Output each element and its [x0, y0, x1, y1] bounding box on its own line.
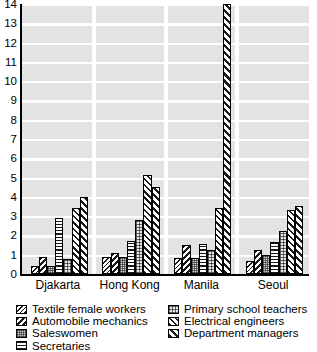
- y-tick-label: 0: [11, 269, 17, 280]
- x-tick-label: Djakarta: [36, 278, 81, 292]
- bar[interactable]: [119, 257, 127, 274]
- legend-label: Textile female workers: [32, 303, 146, 315]
- x-axis-tick-labels: DjakartaHong KongManilaSeoul: [22, 278, 309, 298]
- bar[interactable]: [47, 266, 55, 274]
- y-tick-label: 2: [11, 230, 17, 241]
- y-tick-label: 14: [4, 0, 17, 10]
- x-axis-line: [20, 274, 309, 276]
- legend-swatch-icon: [16, 305, 27, 314]
- legend-item[interactable]: Primary school teachers: [168, 303, 307, 315]
- legend-swatch-icon: [168, 305, 179, 314]
- bar[interactable]: [279, 231, 287, 274]
- chart-legend: Textile female workersAutomobile mechani…: [16, 303, 317, 352]
- legend-label: Department managers: [184, 327, 298, 339]
- y-tick-label: 1: [11, 249, 17, 260]
- bar[interactable]: [143, 175, 151, 274]
- bar[interactable]: [174, 258, 182, 274]
- bar[interactable]: [246, 261, 254, 274]
- y-tick-label: 10: [4, 76, 17, 87]
- legend-column-right: Primary school teachersElectrical engine…: [168, 303, 307, 340]
- y-tick-label: 8: [11, 114, 17, 125]
- legend-swatch-icon: [16, 317, 27, 326]
- legend-label: Saleswomen: [32, 327, 98, 339]
- legend-item[interactable]: Electrical engineers: [168, 315, 307, 327]
- bar[interactable]: [223, 4, 231, 274]
- legend-swatch-icon: [16, 341, 27, 350]
- y-tick-label: 13: [4, 18, 17, 29]
- bar[interactable]: [295, 206, 303, 274]
- bar[interactable]: [72, 208, 80, 274]
- y-tick-label: 3: [11, 211, 17, 222]
- grouped-bar-chart: 01234567891011121314 DjakartaHong KongMa…: [0, 0, 317, 352]
- bar[interactable]: [191, 258, 199, 274]
- legend-label: Secretaries: [32, 340, 90, 352]
- y-tick-label: 7: [11, 134, 17, 145]
- bar[interactable]: [199, 244, 207, 274]
- bar[interactable]: [127, 241, 135, 274]
- plot-area: [22, 4, 309, 274]
- legend-swatch-icon: [168, 329, 179, 338]
- bar[interactable]: [31, 266, 39, 274]
- x-tick-label: Manila: [184, 278, 219, 292]
- legend-item[interactable]: Secretaries: [16, 340, 148, 352]
- legend-item[interactable]: Department managers: [168, 327, 307, 339]
- bar[interactable]: [39, 257, 47, 274]
- bar-group-bars: [22, 4, 94, 274]
- x-tick-label: Seoul: [258, 278, 289, 292]
- y-tick-label: 12: [4, 37, 17, 48]
- legend-item[interactable]: Textile female workers: [16, 303, 148, 315]
- x-tick-label: Hong Kong: [100, 278, 160, 292]
- bar[interactable]: [111, 253, 119, 274]
- plot-wrapper: 01234567891011121314 DjakartaHong KongMa…: [0, 0, 317, 300]
- bar-group: [237, 4, 309, 274]
- legend-swatch-icon: [168, 317, 179, 326]
- bar[interactable]: [207, 250, 215, 274]
- bar-group: [166, 4, 238, 274]
- legend-label: Primary school teachers: [184, 303, 307, 315]
- bar[interactable]: [215, 208, 223, 274]
- y-axis-tick-labels: 01234567891011121314: [0, 0, 19, 276]
- bar[interactable]: [80, 197, 88, 274]
- bar[interactable]: [102, 257, 110, 274]
- y-tick-label: 11: [5, 56, 17, 67]
- bar[interactable]: [254, 250, 262, 274]
- legend-item[interactable]: Saleswomen: [16, 327, 148, 339]
- bar-group: [94, 4, 166, 274]
- legend-label: Automobile mechanics: [32, 315, 148, 327]
- y-tick-label: 4: [11, 191, 17, 202]
- y-tick-label: 9: [11, 95, 17, 106]
- legend-item[interactable]: Automobile mechanics: [16, 315, 148, 327]
- bar-group: [22, 4, 94, 274]
- y-tick-label: 5: [11, 172, 17, 183]
- legend-swatch-icon: [16, 329, 27, 338]
- bar[interactable]: [152, 187, 160, 274]
- bar[interactable]: [182, 245, 190, 274]
- legend-label: Electrical engineers: [184, 315, 284, 327]
- bar[interactable]: [55, 218, 63, 274]
- bar[interactable]: [63, 259, 71, 274]
- bar-group-bars: [94, 4, 166, 274]
- bar[interactable]: [135, 220, 143, 274]
- legend-column-left: Textile female workersAutomobile mechani…: [16, 303, 148, 352]
- y-tick-label: 6: [11, 153, 17, 164]
- bar[interactable]: [262, 255, 270, 274]
- bar[interactable]: [270, 242, 278, 274]
- bar-group-bars: [166, 4, 238, 274]
- bar-group-bars: [237, 4, 309, 274]
- bar[interactable]: [287, 210, 295, 274]
